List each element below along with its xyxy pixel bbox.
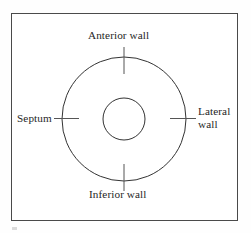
scan-artifact-mark [12,227,17,230]
label-anterior-wall: Anterior wall [88,29,149,41]
inner-circle [103,98,145,140]
label-lateral-wall: Lateral wall [198,105,230,130]
label-septum: Septum [17,112,52,124]
label-inferior-wall: Inferior wall [89,188,147,200]
outer-circle [62,57,186,181]
label-lateral-wall-line2: wall [198,118,230,131]
label-lateral-wall-line1: Lateral [198,105,230,118]
figure-root: Anterior wall Septum Lateral wall Inferi… [0,0,251,233]
